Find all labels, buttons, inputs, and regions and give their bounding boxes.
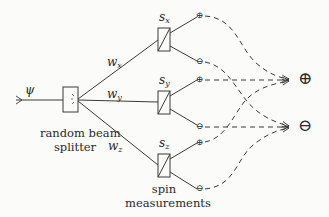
- detector-sz-label: sz: [159, 137, 169, 151]
- sx-plus-icon: ⊕: [196, 11, 204, 20]
- weight-wx-label: wx: [107, 56, 122, 70]
- detector-sx-box: [158, 28, 170, 51]
- weight-wz-label: wz: [108, 140, 123, 154]
- sx-minus-icon: ⊖: [196, 57, 204, 66]
- beam-splitter-box: [63, 87, 78, 112]
- detector-sy-label: sy: [159, 74, 170, 88]
- sz-plus-icon: ⊕: [196, 138, 204, 147]
- output-minus-icon: ⊖: [298, 117, 312, 134]
- detector-sx-label: sx: [159, 11, 170, 25]
- weight-wy-label: wy: [107, 88, 122, 102]
- detector-sz-box: [158, 154, 170, 177]
- output-plus-icon: ⊕: [298, 70, 312, 87]
- sy-minus-icon: ⊖: [196, 122, 204, 131]
- detector-sy-box: [158, 91, 170, 114]
- detector-caption: spin measurements: [125, 182, 203, 210]
- dashed-routes: [205, 16, 289, 189]
- sy-plus-icon: ⊕: [196, 75, 204, 84]
- splitter-caption: random beam splitter: [40, 126, 110, 154]
- input-psi-label: ψ: [25, 84, 34, 96]
- spin-measurement-diagram: ψ wx wy wz random beam splitter sx sy sz…: [0, 0, 329, 217]
